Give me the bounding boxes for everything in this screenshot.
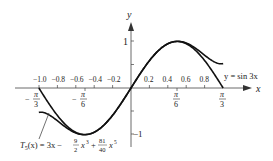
- tick-label: −0.6: [70, 75, 84, 84]
- sin-curve-label: y = sin 3x: [224, 71, 259, 81]
- svg-text:π: π: [220, 90, 225, 99]
- svg-text:+: +: [91, 140, 96, 150]
- svg-text:x: x: [108, 140, 113, 150]
- svg-text:3: 3: [220, 100, 224, 109]
- x-axis-label: x: [255, 83, 261, 94]
- svg-text:π: π: [174, 90, 179, 99]
- tick-label: 0.8: [200, 75, 210, 84]
- x-decimal-ticks: [39, 85, 205, 88]
- tick-label: 0.4: [163, 75, 173, 84]
- tick-label: −0.4: [89, 75, 103, 84]
- svg-text:π: π: [34, 90, 39, 99]
- tick-pi-3: π 3: [219, 90, 226, 109]
- y-tick-label-neg1: −1: [133, 129, 143, 139]
- x-decimal-tick-labels: −1.0 −0.8 −0.6 −0.4 −0.2 0.2 0.4 0.6 0.8: [33, 75, 209, 84]
- tick-label: −1.0: [33, 75, 47, 84]
- x-axis-arrow-icon: [243, 85, 252, 91]
- taylor-leader-line: [39, 113, 49, 139]
- svg-text:3: 3: [86, 139, 89, 145]
- tick-neg-pi-3: − π 3: [25, 90, 40, 109]
- svg-text:9: 9: [74, 137, 77, 144]
- y-tick-label-1: 1: [123, 36, 128, 47]
- tick-label: −0.8: [52, 75, 66, 84]
- svg-text:x: x: [80, 140, 85, 150]
- tick-neg-pi-6: − π 6: [72, 90, 87, 109]
- svg-text:6: 6: [174, 100, 178, 109]
- tick-label: −0.2: [107, 75, 121, 84]
- svg-text:5: 5: [114, 139, 117, 145]
- svg-text:2: 2: [74, 146, 77, 153]
- taylor-curve-label: T5(x) = 3x − 9 2 x 3 + 81 40 x 5: [20, 137, 117, 153]
- chart: x y 1 −1 −1.0 −0.8 −0.6 −0.4 −0.2 0.2 0.…: [0, 0, 273, 161]
- tick-label: 0.2: [144, 75, 154, 84]
- svg-text:π: π: [81, 90, 86, 99]
- tick-pi-6: π 6: [173, 90, 180, 109]
- svg-text:3: 3: [34, 100, 38, 109]
- svg-text:6: 6: [81, 100, 85, 109]
- svg-text:40: 40: [99, 146, 106, 153]
- svg-text:−: −: [25, 95, 30, 104]
- y-axis-label: y: [126, 9, 132, 20]
- svg-text:−: −: [72, 95, 77, 104]
- svg-text:T5(x) = 3x −: T5(x) = 3x −: [20, 140, 62, 151]
- tick-label: 0.6: [181, 75, 191, 84]
- y-axis-arrow-icon: [128, 22, 134, 31]
- svg-text:81: 81: [99, 137, 106, 144]
